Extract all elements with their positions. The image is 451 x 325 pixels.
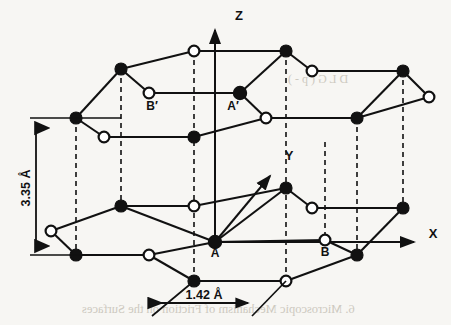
bond-lower (194, 188, 286, 206)
atom-label-a: A (211, 246, 220, 260)
atom-open-upper (307, 66, 318, 77)
z-axis-label: Z (235, 8, 243, 23)
atom-open-lower (307, 203, 318, 214)
bond-lower (121, 206, 215, 242)
atom-filled-lower (351, 249, 363, 261)
bond-lower (51, 206, 121, 231)
atom-filled-upper (115, 63, 127, 75)
atom-open-lower (189, 201, 200, 212)
atom-open-lower (46, 226, 57, 237)
lattice-diagram: 3.35 Å 1.42 Å Z X Y A′ B′ A B (0, 0, 451, 325)
atom-filled-lower (280, 182, 292, 194)
lower-layer-bonds (51, 188, 403, 281)
atom-filled-lower (397, 202, 409, 214)
stacking-registry-lines (76, 51, 403, 281)
atom-open-upper (261, 113, 272, 124)
atom-filled-upper (280, 45, 292, 57)
graphite-structure-figure: D L G ( p - ) 6. Microscopic Mechanism o… (0, 0, 451, 325)
bond-upper (194, 118, 266, 137)
bond-lower (149, 242, 215, 255)
bond-upper (121, 51, 194, 69)
atom-open-b-prime (144, 88, 155, 99)
atom-label-b-prime: B′ (146, 99, 158, 113)
atom-open-upper (99, 132, 110, 143)
atom-filled-a-prime (233, 86, 246, 99)
bond-length-dimension: 1.42 Å (152, 281, 286, 316)
y-axis-label: Y (285, 148, 294, 163)
atom-open-b (320, 235, 331, 246)
bond-upper (240, 51, 286, 93)
y-axis-line (215, 176, 270, 242)
bond-lower (149, 255, 194, 281)
interlayer-spacing-label: 3.35 Å (18, 170, 33, 207)
atom-open-lower (144, 250, 155, 261)
atom-filled-lower (115, 200, 127, 212)
atom-label-b: B (321, 245, 330, 259)
atom-filled-upper (188, 131, 200, 143)
bond-length-label: 1.42 Å (186, 287, 223, 302)
bond-lower (357, 208, 403, 255)
upper-layer-bonds (76, 51, 429, 137)
atom-filled-upper (397, 65, 409, 77)
lower-layer-atoms (46, 182, 409, 287)
x-axis-label: X (429, 226, 438, 241)
bond-upper (76, 69, 121, 118)
atom-filled-upper (351, 112, 363, 124)
atom-label-a-prime: A′ (227, 99, 239, 113)
dim-leader-right (252, 281, 286, 316)
bond-lower (215, 188, 286, 242)
atom-open-upper (424, 92, 435, 103)
atom-open-upper (189, 46, 200, 57)
